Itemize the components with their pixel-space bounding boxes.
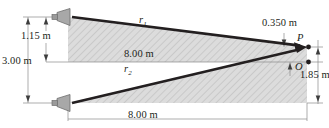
dimension-label-3-00m: 3.00 m — [2, 56, 32, 67]
point-P-dot — [306, 45, 311, 50]
ray-label-r1-subscript: 1 — [143, 20, 147, 28]
point-label-O: O — [295, 62, 303, 73]
point-label-P: P — [297, 33, 304, 44]
ray-label-r1: r1 — [139, 15, 147, 28]
dimension-label-0-350m: 0.350 m — [262, 18, 297, 29]
point-O-dot — [306, 60, 311, 65]
ray-label-r2: r2 — [124, 64, 132, 77]
dimension-label-8-00m-top: 8.00 m — [124, 49, 154, 60]
dimension-label-8-00m-bottom: 8.00 m — [128, 110, 158, 121]
speaker-top-icon — [52, 9, 70, 26]
dimension-label-1-85m: 1.85 m — [300, 70, 329, 81]
speaker-bottom-icon — [52, 95, 70, 112]
figure-container: 1.15 m 3.00 m 8.00 m 8.00 m 0.350 m 1.85… — [0, 0, 329, 128]
dimension-label-1-15m: 1.15 m — [21, 31, 51, 42]
ray-label-r2-subscript: 2 — [128, 69, 132, 77]
